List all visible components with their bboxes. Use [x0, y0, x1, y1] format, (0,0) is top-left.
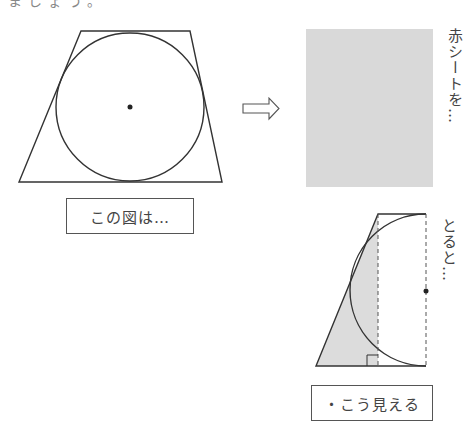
caption-bottom-text: ・こう見える [324, 393, 420, 414]
half-trapezoid-figure [316, 214, 429, 366]
red-sheet-cover [306, 29, 433, 187]
vertical-text-remove: とると… [440, 218, 455, 282]
vertical-text-red-sheet: 赤シートを… [446, 28, 461, 124]
trapezoid [19, 31, 222, 182]
trapezoid-figure [19, 31, 222, 182]
caption-box-left: この図は… [66, 198, 194, 234]
circle-center-dot [128, 105, 133, 110]
caption-left-text: この図は… [90, 206, 170, 227]
arrow-right-icon [243, 98, 279, 119]
caption-box-bottom: ・こう見える [311, 385, 433, 421]
semicircle-center-dot [424, 289, 429, 294]
